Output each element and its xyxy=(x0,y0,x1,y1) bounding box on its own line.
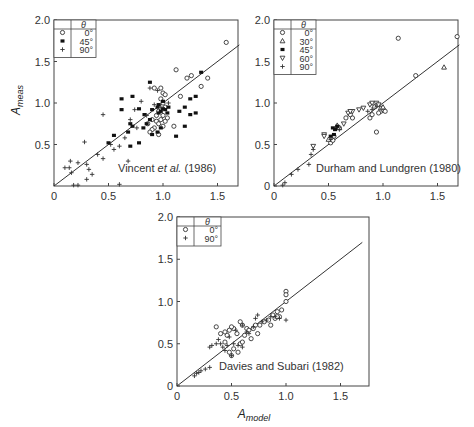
source-annotation: Davies and Subari (1982) xyxy=(219,360,344,372)
series-30deg xyxy=(326,65,446,142)
legend: θ0°90° xyxy=(177,217,221,247)
chart-figure: 00.51.01.50.51.01.52.0θ0°45°90°Vincent e… xyxy=(0,0,474,427)
scatter-panel-3: 00.51.01.500.51.01.52.0θ0°90°Davies and … xyxy=(158,211,369,402)
y-tick-label: 1.0 xyxy=(255,97,270,109)
series-60deg xyxy=(311,101,381,148)
series-90deg xyxy=(281,107,375,187)
legend-label: 90° xyxy=(79,45,93,55)
x-tick-label: 0.5 xyxy=(101,190,116,202)
y-tick-label: 2.0 xyxy=(35,14,50,26)
y-tick-label: 0 xyxy=(167,380,173,392)
x-tick-label: 1.5 xyxy=(210,190,225,202)
x-tick-label: 0 xyxy=(271,190,277,202)
legend: θ0°45°90° xyxy=(54,20,96,58)
y-tick-label: 0.5 xyxy=(35,139,50,151)
series-0deg xyxy=(329,35,460,145)
x-tick-label: 1.0 xyxy=(155,190,170,202)
y-tick-label: 0.5 xyxy=(158,338,173,350)
x-tick-label: 1.5 xyxy=(430,190,445,202)
x-tick-label: 1.0 xyxy=(375,190,390,202)
legend-label: 90° xyxy=(204,234,218,244)
source-annotation: Durham and Lundgren (1980) xyxy=(316,162,461,174)
x-tick-label: 1.0 xyxy=(278,390,293,402)
y-tick-label: 1.5 xyxy=(158,253,173,265)
y-tick-label: 1.0 xyxy=(35,97,50,109)
x-tick-label: 0.5 xyxy=(224,390,239,402)
y-tick-label: 2.0 xyxy=(255,14,270,26)
x-tick-label: 0 xyxy=(174,390,180,402)
series-0deg xyxy=(146,40,229,136)
legend-label: 90° xyxy=(299,62,313,72)
y-tick-label: 0.5 xyxy=(255,139,270,151)
x-axis-title: Amodel xyxy=(237,407,272,423)
y-tick-label: 2.0 xyxy=(158,211,173,223)
x-tick-label: 0 xyxy=(51,190,57,202)
source-annotation: Vincent et al. (1986) xyxy=(118,162,216,174)
x-tick-label: 0.5 xyxy=(321,190,336,202)
series-45deg xyxy=(329,125,340,138)
y-tick-label: 1.0 xyxy=(158,296,173,308)
y-tick-label: 1.5 xyxy=(35,56,50,68)
x-tick-label: 1.5 xyxy=(333,390,348,402)
scatter-panel-1: 00.51.01.50.51.01.52.0θ0°45°90°Vincent e… xyxy=(35,14,240,202)
series-0deg xyxy=(214,289,288,357)
legend: θ0°30°45°60°90° xyxy=(274,20,316,75)
y-tick-label: 1.5 xyxy=(255,56,270,68)
scatter-panel-2: 00.51.01.500.51.01.52.0θ0°30°45°60°90°Du… xyxy=(255,14,461,202)
y-tick-label: 0 xyxy=(264,180,270,192)
y-axis-title: Ameas xyxy=(9,84,25,116)
